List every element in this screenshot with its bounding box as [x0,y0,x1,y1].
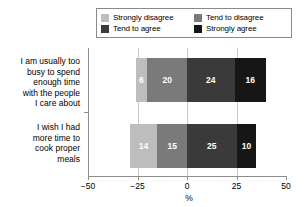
bar-segment-value: 25 [207,141,216,151]
x-axis-tick-label: −50 [73,181,103,191]
plot-area: 206241615142510 [88,48,286,176]
bar-segment: 15 [157,124,187,168]
category-label-bar1-line1: I am usually too [0,56,80,67]
x-axis-tick [237,176,238,180]
x-axis-tick-label: 0 [172,181,202,191]
x-axis-tick-label: 25 [222,181,252,191]
bar-group: 15142510 [88,124,286,168]
legend-row-2: Tend to agree Strongly agree [101,23,287,34]
bar-segment-value: 16 [246,75,255,85]
category-label-bar2-line4: meals [0,154,80,165]
category-label-bar2-line1: I wish I had [0,122,80,133]
legend-label-strongly-agree: Strongly agree [206,23,257,34]
x-axis-tick [187,176,188,180]
bar-segment-value: 10 [242,141,251,151]
legend-swatch-strongly-disagree [101,14,109,22]
bar-segment: 10 [237,124,257,168]
legend-item-strongly-disagree: Strongly disagree [101,12,194,23]
bar-segment: 20 [147,58,187,102]
bar-segment-value: 20 [162,75,171,85]
bar-segment-value: 6 [139,75,144,85]
bar-segment-value: 14 [139,141,148,151]
bar-segment: 25 [187,124,237,168]
category-label-bar2-line3: cook proper [0,143,80,154]
category-label-bar1-line5: I care about [0,98,80,109]
bar-segment: 14 [130,124,158,168]
bar-group: 2062416 [88,58,286,102]
chart-legend: Strongly disagree Tend to disagree Tend … [96,8,292,38]
legend-label-tend-to-agree: Tend to agree [113,23,161,34]
legend-row-1: Strongly disagree Tend to disagree [101,12,287,23]
legend-swatch-strongly-agree [194,25,202,33]
legend-swatch-tend-to-disagree [194,14,202,22]
x-axis-title: % [0,193,306,203]
x-axis-tick [88,176,89,180]
category-label-bar2: I wish I had more time to cook proper me… [0,122,80,164]
x-axis-tick [138,176,139,180]
legend-item-tend-to-disagree: Tend to disagree [194,12,287,23]
bar-segment: 6 [136,58,148,102]
category-label-bar1-line4: with the people [0,88,80,99]
x-axis-tick-label: −25 [123,181,153,191]
legend-swatch-tend-to-agree [101,25,109,33]
category-label-bar1: I am usually too busy to spend enough ti… [0,56,80,109]
legend-item-tend-to-agree: Tend to agree [101,23,194,34]
bar-segment: 16 [235,58,267,102]
legend-item-strongly-agree: Strongly agree [194,23,287,34]
bar-segment: 24 [187,58,235,102]
category-label-bar1-line3: enough time [0,77,80,88]
category-label-bar1-line2: busy to spend [0,67,80,78]
x-axis-title-text: % [185,193,193,203]
bar-segment-value: 24 [206,75,215,85]
legend-label-strongly-disagree: Strongly disagree [113,12,174,23]
legend-label-tend-to-disagree: Tend to disagree [206,12,264,23]
x-axis-tick [286,176,287,180]
bar-segment-value: 15 [167,141,176,151]
x-axis-tick-label: 50 [271,181,301,191]
category-label-bar2-line2: more time to [0,133,80,144]
